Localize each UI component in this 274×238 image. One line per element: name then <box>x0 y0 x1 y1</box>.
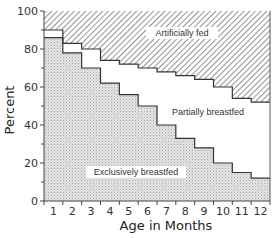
y-tick-label: 0 <box>31 195 38 208</box>
x-tick-label: 1 <box>50 205 57 218</box>
x-tick-label: 9 <box>201 205 208 218</box>
y-tick-label: 100 <box>17 5 38 18</box>
artificially-fed-label: Artificially fed <box>155 28 208 38</box>
x-tick-label: 11 <box>235 205 249 218</box>
x-tick-label: 2 <box>69 205 76 218</box>
y-ticks: 020406080100 <box>17 5 44 208</box>
x-tick-label: 12 <box>254 205 268 218</box>
x-tick-label: 4 <box>106 205 113 218</box>
x-tick-label: 10 <box>216 205 230 218</box>
x-tick-label: 6 <box>144 205 151 218</box>
x-tick-label: 7 <box>163 205 170 218</box>
feeding-chart: 020406080100 123456789101112 Artificiall… <box>0 0 274 238</box>
y-tick-label: 40 <box>24 119 38 132</box>
exclusively-breastfed-label: Exclusively breastfed <box>94 167 179 177</box>
partially-breastfed-label: Partially breastfed <box>172 107 244 117</box>
x-tick-label: 5 <box>125 205 132 218</box>
y-tick-label: 60 <box>24 81 38 94</box>
x-tick-label: 3 <box>88 205 95 218</box>
x-ticks: 123456789101112 <box>44 201 270 218</box>
x-axis-title: Age in Months <box>120 218 213 233</box>
y-tick-label: 80 <box>24 43 38 56</box>
y-tick-label: 20 <box>24 157 38 170</box>
x-tick-label: 8 <box>182 205 189 218</box>
y-axis-title: Percent <box>2 86 17 135</box>
